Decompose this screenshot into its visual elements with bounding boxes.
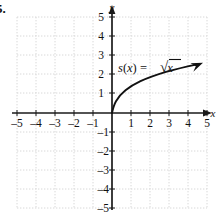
- x-axis-label: x: [210, 107, 216, 119]
- radical-symbol: √x: [160, 59, 173, 75]
- y-tick-label: 3: [98, 49, 104, 61]
- x-tick-label: 3: [166, 117, 172, 129]
- x-tick-label: –3: [48, 117, 61, 129]
- y-tick-label: –1: [97, 126, 110, 138]
- function-label-text: s(x) =: [118, 61, 147, 75]
- y-tick-label: –4: [97, 183, 110, 195]
- y-tick-label: 2: [98, 68, 104, 80]
- y-axis-label: y: [109, 1, 115, 13]
- coordinate-plane: –5 –4 –3 –2 –1 1 2 3 4 5 5 4 3 2 1 –1 –2…: [0, 0, 222, 214]
- y-tick-label: 4: [98, 30, 104, 42]
- y-tick-label: 1: [98, 87, 104, 99]
- x-tick-label: –2: [67, 117, 80, 129]
- x-tick-label: –4: [29, 117, 42, 129]
- y-tick-label: –5: [97, 202, 110, 214]
- x-tick-label: 5: [204, 117, 210, 129]
- x-tick-label: –5: [10, 117, 23, 129]
- x-tick-label: 2: [147, 117, 153, 129]
- y-tick-label: 5: [98, 11, 104, 23]
- y-tick-label: –3: [97, 164, 110, 176]
- curve-arrowhead: [191, 63, 204, 72]
- x-tick-label: 1: [128, 117, 134, 129]
- x-tick-labels: –5 –4 –3 –2 –1 1 2 3 4 5: [10, 117, 210, 129]
- math-figure: 5.: [0, 0, 222, 214]
- y-tick-label: –2: [97, 145, 110, 157]
- x-tick-label: 4: [185, 117, 191, 129]
- function-label: s(x) = √x: [118, 59, 181, 75]
